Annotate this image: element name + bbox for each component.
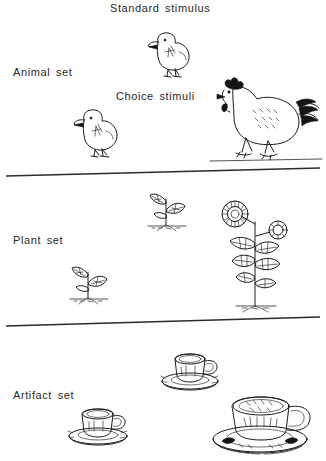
cup-and-saucer-icon — [155, 345, 225, 393]
page-title: Standard stimulus — [110, 2, 210, 14]
chick-icon — [138, 26, 198, 78]
set-label-plant: Plant set — [13, 234, 63, 246]
seedling-icon — [140, 185, 196, 233]
set-label-animal: Animal set — [13, 66, 72, 78]
seedling-icon — [62, 258, 118, 306]
figure-stimulus-sets: Standard stimulus Animal set Choice stim… — [0, 0, 326, 461]
cup-and-saucer-icon — [62, 400, 134, 448]
section-divider — [6, 166, 320, 180]
teacup-and-saucer-icon — [206, 392, 318, 458]
hen-icon — [210, 72, 322, 164]
sunflower-icon — [208, 198, 302, 313]
section-divider — [6, 315, 320, 329]
chick-icon — [64, 103, 126, 158]
choice-stimuli-label: Choice stimuli — [116, 90, 195, 102]
